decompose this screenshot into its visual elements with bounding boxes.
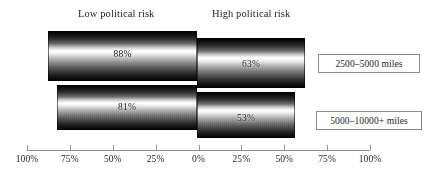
bar-high-risk-row-2: 53% <box>197 92 295 138</box>
x-axis-tick-label: 75% <box>61 154 79 164</box>
bar-value-label: 88% <box>48 49 197 59</box>
x-axis-tick-label: 0% <box>192 154 205 164</box>
x-axis-tick-label: 25% <box>233 154 251 164</box>
x-axis-tick <box>27 145 28 150</box>
x-axis-tick-label: 75% <box>318 154 336 164</box>
bar-low-risk-row-1: 88% <box>48 31 197 81</box>
bidirectional-bar-chart: Low political risk High political risk 8… <box>0 0 427 175</box>
x-axis-tick-label: 50% <box>104 154 122 164</box>
x-axis-tick-label: 25% <box>147 154 165 164</box>
column-header-low-political-risk: Low political risk <box>78 8 154 19</box>
legend-item-2500-5000-miles: 2500–5000 miles <box>318 54 420 73</box>
x-axis-tick <box>241 145 242 150</box>
bar-value-label: 63% <box>197 59 305 69</box>
x-axis-tick <box>284 145 285 150</box>
bar-low-risk-row-2: 81% <box>57 85 197 130</box>
legend-item-5000-10000-miles: 5000–10000+ miles <box>316 111 422 130</box>
x-axis-tick <box>199 145 200 150</box>
column-header-high-political-risk: High political risk <box>212 8 290 19</box>
x-axis-tick-label: 100% <box>16 154 39 164</box>
x-axis-line <box>27 150 370 151</box>
bar-high-risk-row-1: 63% <box>197 38 305 88</box>
x-axis-tick-label: 50% <box>275 154 293 164</box>
x-axis-tick <box>370 145 371 150</box>
x-axis-tick <box>113 145 114 150</box>
x-axis-tick <box>70 145 71 150</box>
bar-value-label: 81% <box>57 102 197 112</box>
bar-value-label: 53% <box>197 113 295 123</box>
x-axis-tick <box>327 145 328 150</box>
x-axis-tick-label: 100% <box>359 154 382 164</box>
x-axis-tick <box>156 145 157 150</box>
